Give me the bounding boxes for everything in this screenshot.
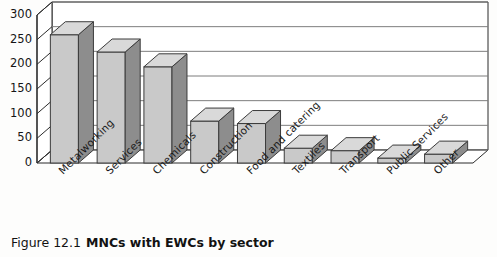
y-tick-label: 100 bbox=[2, 108, 32, 119]
y-axis-ticks: 050100150200250300 bbox=[0, 0, 32, 180]
x-axis-labels: MetalworkingServicesChemicalsConstructio… bbox=[0, 160, 497, 220]
y-tick-label: 150 bbox=[2, 83, 32, 94]
y-tick-label: 200 bbox=[2, 58, 32, 69]
y-tick-label: 250 bbox=[2, 34, 32, 45]
figure-caption: Figure 12.1MNCs with EWCs by sector bbox=[11, 235, 274, 250]
figure-page: 050100150200250300 MetalworkingServicesC… bbox=[0, 0, 497, 257]
figure-number: Figure 12.1 bbox=[11, 235, 81, 250]
y-tick-label: 300 bbox=[2, 9, 32, 20]
figure-title: MNCs with EWCs by sector bbox=[86, 235, 274, 250]
bar-chart: 050100150200250300 MetalworkingServicesC… bbox=[0, 0, 497, 215]
y-tick-label: 50 bbox=[2, 132, 32, 143]
